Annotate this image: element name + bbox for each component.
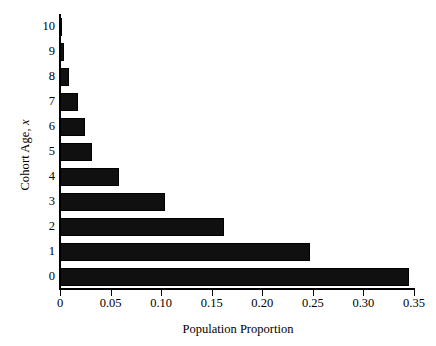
bar	[60, 143, 92, 161]
bar	[60, 93, 78, 111]
bar	[60, 193, 165, 211]
plot-area	[60, 14, 414, 289]
y-tick-label-4: 4	[9, 170, 55, 183]
bar-chart-figure: Cohort Age, x 012345678910 Population Pr…	[0, 0, 436, 346]
bar	[60, 268, 409, 286]
y-tick-label-2: 2	[9, 220, 55, 233]
x-tick-label-0.35: 0.35	[384, 297, 436, 311]
y-tick-label-9: 9	[9, 45, 55, 58]
y-axis-tick-labels: 012345678910	[0, 0, 55, 346]
bar	[60, 18, 62, 36]
bar	[60, 68, 69, 86]
y-tick-label-3: 3	[9, 195, 55, 208]
y-tick-label-7: 7	[9, 95, 55, 108]
y-tick-label-1: 1	[9, 245, 55, 258]
y-tick-label-8: 8	[9, 70, 55, 83]
bar	[60, 218, 224, 236]
bar	[60, 43, 64, 61]
y-tick-label-10: 10	[9, 20, 55, 33]
y-tick-label-6: 6	[9, 120, 55, 133]
bar	[60, 168, 119, 186]
x-axis-title: Population Proportion	[60, 322, 416, 337]
y-tick-label-0: 0	[9, 270, 55, 283]
y-tick-label-5: 5	[9, 145, 55, 158]
bar	[60, 243, 310, 261]
bar	[60, 118, 85, 136]
